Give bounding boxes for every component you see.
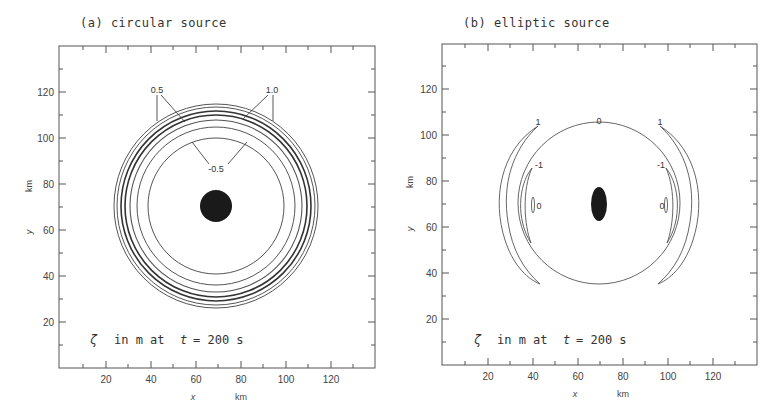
- panel-b-x-label: x: [572, 389, 578, 399]
- panel-a-x-tick-labels: 20 40 60 80 100 120: [100, 374, 339, 385]
- x-tick-80: 80: [235, 374, 247, 385]
- contour-label-left-neg1: -1: [535, 160, 543, 170]
- panel-b-y-label: y: [405, 226, 415, 232]
- x-tick-100: 100: [278, 374, 295, 385]
- contour-left-crescent-1: [499, 126, 540, 284]
- y-tick-60: 60: [43, 225, 55, 236]
- panel-a-annotation: ζ in m at t = 200 s: [90, 333, 244, 347]
- x-tick-40: 40: [527, 371, 539, 382]
- y-tick-120: 120: [420, 84, 437, 95]
- annotation-time: = 200 s: [576, 333, 627, 347]
- panel-a-x-label: x: [190, 392, 196, 402]
- y-tick-40: 40: [43, 271, 55, 282]
- panel-b-y-unit: km: [405, 176, 415, 188]
- x-tick-80: 80: [617, 371, 629, 382]
- panel-a-circular-source: [200, 190, 232, 222]
- contour-label-left-0: 0: [536, 201, 541, 211]
- zeta-symbol: ζ: [90, 333, 98, 347]
- y-tick-100: 100: [37, 133, 54, 144]
- contour-left-sliver-0: [532, 197, 535, 213]
- panel-b-annotation: ζ in m at t = 200 s: [474, 333, 627, 347]
- x-tick-120: 120: [705, 371, 722, 382]
- panel-b-elliptic-source: [591, 187, 607, 221]
- contour-label-right-neg1: -1: [657, 160, 665, 170]
- contour-label-top-0: 0: [596, 116, 601, 126]
- contour-label-right-1: 1: [657, 117, 662, 127]
- annotation-time: = 200 s: [193, 333, 244, 347]
- annotation-t: t: [180, 333, 187, 347]
- y-tick-120: 120: [37, 87, 54, 98]
- annotation-units: in m at: [114, 333, 165, 347]
- contour-right-sliver-0: [665, 197, 668, 213]
- panel-a-y-tick-labels: 20 40 60 80 100 120: [37, 87, 54, 328]
- x-tick-60: 60: [190, 374, 202, 385]
- contour-label-left-1: 1: [535, 117, 540, 127]
- y-tick-100: 100: [420, 130, 437, 141]
- panel-a-x-unit: km: [235, 392, 247, 402]
- annotation-t: t: [563, 333, 570, 347]
- panel-b-x-tick-labels: 20 40 60 80 100 120: [482, 371, 721, 382]
- panel-b: 20 40 60 80 100 120 20 40 60 80 100 120 …: [405, 44, 757, 399]
- x-tick-40: 40: [145, 374, 157, 385]
- y-tick-60: 60: [426, 222, 438, 233]
- figure-canvas: 20 40 60 80 100 120 20 40 60 80 100 120 …: [0, 0, 773, 416]
- annotation-units: in m at: [497, 333, 548, 347]
- x-tick-100: 100: [660, 371, 677, 382]
- x-tick-120: 120: [323, 374, 340, 385]
- contour-left-crescent-neg1: [521, 168, 532, 243]
- panel-b-x-unit: km: [617, 389, 629, 399]
- contour-label-neg-0-5: -0.5: [208, 164, 224, 174]
- panel-a: 20 40 60 80 100 120 20 40 60 80 100 120 …: [24, 46, 375, 402]
- contour-label-0-5: 0.5: [151, 85, 164, 95]
- contour-label-right-0: 0: [659, 201, 664, 211]
- panel-b-y-tick-labels: 20 40 60 80 100 120: [420, 84, 437, 325]
- zeta-symbol: ζ: [474, 333, 482, 347]
- y-tick-80: 80: [426, 176, 438, 187]
- y-tick-20: 20: [426, 314, 438, 325]
- y-tick-40: 40: [426, 268, 438, 279]
- contour-label-1-0: 1.0: [266, 85, 279, 95]
- x-tick-60: 60: [572, 371, 584, 382]
- x-tick-20: 20: [100, 374, 112, 385]
- y-tick-20: 20: [43, 317, 55, 328]
- x-tick-20: 20: [482, 371, 494, 382]
- y-tick-80: 80: [43, 179, 55, 190]
- panel-a-y-label: y: [24, 229, 34, 235]
- panel-a-y-unit: km: [24, 180, 34, 192]
